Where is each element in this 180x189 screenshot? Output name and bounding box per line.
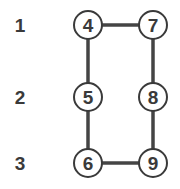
node-label: 7 [148, 15, 159, 36]
node-9: 9 [139, 149, 167, 177]
node-label: 5 [83, 87, 94, 108]
node-label: 4 [83, 15, 94, 36]
row-label-1: 1 [15, 15, 26, 36]
node-label: 6 [83, 153, 94, 174]
row-labels-group: 1 2 3 [15, 15, 26, 174]
row-label-3: 3 [15, 153, 26, 174]
node-5: 5 [74, 83, 102, 111]
node-label: 9 [148, 153, 159, 174]
graph-diagram: 1 2 3 475869 [0, 0, 180, 189]
nodes-group: 475869 [74, 11, 167, 177]
node-8: 8 [139, 83, 167, 111]
row-label-2: 2 [15, 87, 26, 108]
node-label: 8 [148, 87, 159, 108]
node-6: 6 [74, 149, 102, 177]
node-7: 7 [139, 11, 167, 39]
node-4: 4 [74, 11, 102, 39]
